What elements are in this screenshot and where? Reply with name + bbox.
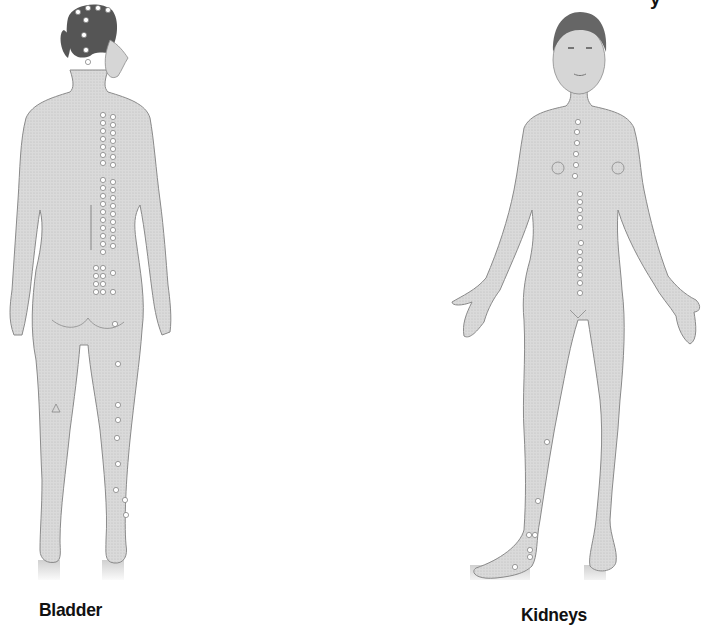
acupoint	[110, 162, 115, 167]
acupoint	[115, 461, 120, 466]
acupoint	[535, 498, 540, 503]
acupoint	[100, 217, 105, 222]
acupoint	[100, 233, 105, 238]
acupoint	[578, 240, 583, 245]
acupoint	[110, 138, 115, 143]
acupoint	[100, 265, 105, 270]
acupoint	[123, 512, 128, 517]
acupoint	[100, 160, 105, 165]
acupoint	[512, 564, 517, 569]
acupoint	[110, 154, 115, 159]
acupoint	[574, 140, 579, 145]
acupoint	[93, 265, 98, 270]
acupoint	[93, 273, 98, 278]
acupoint	[100, 289, 105, 294]
acupoint	[95, 5, 100, 10]
acupoint	[110, 114, 115, 119]
acupoint	[100, 273, 105, 278]
acupoint	[544, 439, 549, 444]
acupoint	[577, 290, 582, 295]
caption-kidneys: Kidneys	[521, 604, 587, 625]
acupoint	[93, 281, 98, 286]
acupoint	[110, 195, 115, 200]
acupoint	[122, 497, 127, 502]
acupoint	[527, 554, 532, 559]
acupoint	[100, 120, 105, 125]
acupoint	[83, 47, 88, 52]
acupoint	[575, 119, 580, 124]
acupoint	[100, 241, 105, 246]
acupoint	[110, 235, 115, 240]
acupoint	[577, 272, 582, 277]
acupoint	[85, 5, 90, 10]
acupoint	[115, 361, 120, 366]
caption-bladder: Bladder	[39, 599, 102, 621]
acupoint	[526, 532, 531, 537]
acupoint	[527, 547, 532, 552]
acupoint	[577, 265, 582, 270]
acupoint	[573, 151, 578, 156]
acupoint	[532, 532, 537, 537]
acupoint	[105, 7, 110, 12]
bladder-acupoints	[75, 5, 128, 517]
acupoint	[110, 289, 115, 294]
acupoint	[577, 215, 582, 220]
acupoint	[577, 207, 582, 212]
acupoint	[110, 211, 115, 216]
acupoint	[113, 487, 118, 492]
acupoint	[81, 32, 86, 37]
acupoint	[100, 209, 105, 214]
acupoint	[75, 9, 80, 14]
acupoint	[110, 187, 115, 192]
acupoint	[110, 219, 115, 224]
acupoint	[112, 321, 117, 326]
acupoint	[110, 122, 115, 127]
kidney-acupoints	[512, 119, 583, 569]
acupoint	[110, 203, 115, 208]
acupoint	[114, 435, 119, 440]
bladder-acupoints-layer	[0, 0, 200, 580]
acupoint	[115, 402, 120, 407]
acupoint	[577, 257, 582, 262]
acupoint	[577, 199, 582, 204]
figure-kidneys-front-view	[440, 0, 702, 580]
acupoint	[100, 136, 105, 141]
acupoint	[110, 243, 115, 248]
acupoint	[83, 17, 88, 22]
acupoint	[100, 201, 105, 206]
acupoint	[577, 191, 582, 196]
acupoint	[93, 289, 98, 294]
acupoint	[100, 193, 105, 198]
acupoint	[574, 129, 579, 134]
acupoint	[100, 249, 105, 254]
acupoint	[85, 59, 90, 64]
acupoint	[100, 152, 105, 157]
acupoint	[572, 173, 577, 178]
figure-bladder-back-view	[0, 0, 200, 580]
acupoint	[573, 162, 578, 167]
acupoint	[100, 185, 105, 190]
acupoint	[100, 177, 105, 182]
acupoint	[577, 224, 582, 229]
acupoint	[577, 280, 582, 285]
acupoint	[110, 179, 115, 184]
acupoint	[110, 227, 115, 232]
acupoint	[110, 146, 115, 151]
acupoint	[110, 270, 115, 275]
acupoint	[115, 417, 120, 422]
acupoint	[100, 225, 105, 230]
acupoint	[110, 130, 115, 135]
acupoint	[100, 128, 105, 133]
kidneys-acupoints-layer	[440, 0, 702, 580]
acupoint	[577, 249, 582, 254]
acupoint	[100, 112, 105, 117]
acupoint	[100, 144, 105, 149]
acupoint	[100, 281, 105, 286]
